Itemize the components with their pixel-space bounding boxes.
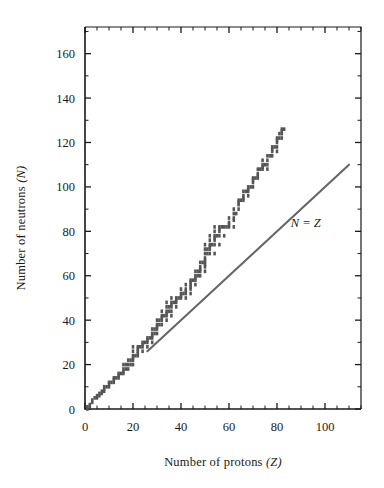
- plot-area: 020406080100 020406080100120140160 N = Z: [0, 0, 384, 488]
- y-axis-label-main: Number of neutrons: [14, 186, 28, 290]
- svg-text:20: 20: [63, 358, 76, 372]
- svg-text:80: 80: [63, 225, 76, 239]
- svg-text:80: 80: [271, 420, 284, 434]
- svg-text:N = Z: N = Z: [290, 216, 322, 230]
- svg-text:20: 20: [127, 420, 140, 434]
- svg-text:100: 100: [56, 180, 75, 194]
- chart-background: [0, 0, 384, 488]
- svg-text:160: 160: [56, 47, 75, 61]
- y-axis-label: Number of neutrons (N): [14, 128, 34, 328]
- x-axis-label-symbol: (Z): [266, 455, 282, 469]
- x-axis-label: Number of protons (Z): [85, 455, 361, 475]
- svg-text:120: 120: [56, 136, 75, 150]
- svg-text:40: 40: [175, 420, 188, 434]
- x-axis-label-main: Number of protons: [164, 455, 263, 469]
- svg-text:40: 40: [63, 314, 76, 328]
- svg-text:60: 60: [223, 420, 236, 434]
- n-equals-z-annotation: N = Z: [290, 216, 322, 230]
- svg-text:100: 100: [316, 420, 335, 434]
- svg-text:0: 0: [82, 420, 88, 434]
- svg-text:60: 60: [63, 269, 76, 283]
- svg-text:140: 140: [56, 92, 75, 106]
- nuclide-stability-chart: 020406080100 020406080100120140160 N = Z…: [0, 0, 384, 488]
- svg-text:0: 0: [69, 403, 75, 417]
- y-axis-label-symbol: (N): [14, 166, 28, 183]
